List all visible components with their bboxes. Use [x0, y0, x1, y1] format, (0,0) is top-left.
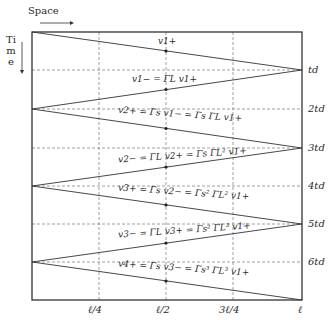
t-tick-3: 3td [308, 143, 325, 153]
t-tick-4: 4td [308, 181, 325, 191]
t-tick-5: 5td [308, 219, 325, 229]
x-tick-full: ℓ [298, 305, 302, 315]
equation-v1-minus: v1− = ΓL v1+ [132, 75, 197, 84]
x-tick-half: ℓ/2 [156, 305, 170, 315]
t-tick-1: td [308, 65, 318, 75]
space-arrow-icon [40, 21, 74, 25]
bounce-diagram [0, 0, 333, 326]
x-tick-three-quarter: 3ℓ/4 [219, 305, 239, 315]
time-arrow-icon [20, 42, 24, 74]
x-tick-quarter: ℓ/4 [88, 305, 102, 315]
space-axis-label: Space [28, 6, 59, 16]
t-tick-6: 6td [308, 257, 325, 267]
time-axis-label: Time [6, 34, 16, 67]
equation-v1-plus: v1+ [158, 37, 176, 46]
t-tick-2: 2td [308, 104, 325, 114]
